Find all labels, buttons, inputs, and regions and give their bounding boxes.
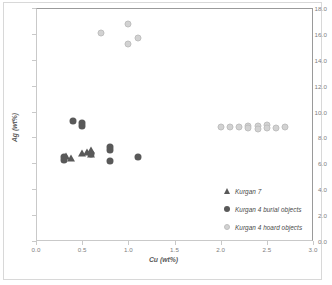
x-axis-tick-label: 0.0 [16,246,56,253]
y-axis-tick-mark [32,189,36,190]
y-axis-tick-mark [32,86,36,87]
x-axis-tick-mark [82,241,83,245]
x-axis-tick-label: 2.0 [201,246,241,253]
x-axis-tick-label: 3.0 [293,246,332,253]
y-axis-tick-label: 8.0 [297,134,327,141]
legend-item-kurgan-4-hoard[interactable]: Kurgan 4 hoard objects [222,218,320,236]
y-axis-tick-label: 14.0 [297,56,327,63]
y-axis-tick-label: 12.0 [297,82,327,89]
filled-circle-marker-icon [222,206,232,212]
x-axis-tick-mark [36,241,37,245]
legend-label: Kurgan 7 [235,188,261,195]
y-axis-tick-mark [32,112,36,113]
y-axis-tick-mark [32,137,36,138]
y-axis-tick-mark [32,34,36,35]
open-circle-marker-icon [222,224,232,230]
y-axis-tick-label: 16.0 [297,30,327,37]
y-axis-label: Ag (wt%) [11,93,18,163]
x-axis-tick-label: 2.5 [247,246,287,253]
x-axis-tick-label: 0.5 [62,246,102,253]
y-axis-tick-mark [32,8,36,9]
x-axis-tick-mark [313,241,314,245]
y-axis-tick-label: 18.0 [297,5,327,12]
y-axis-tick-mark [32,163,36,164]
y-axis-tick-label: 10.0 [297,108,327,115]
legend: Kurgan 7 Kurgan 4 burial objects Kurgan … [222,182,320,236]
x-axis-tick-label: 1.5 [155,246,195,253]
triangle-marker-icon [222,188,232,194]
y-axis-tick-label: 6.0 [297,160,327,167]
legend-item-kurgan-4-burial[interactable]: Kurgan 4 burial objects [222,200,320,218]
y-axis-tick-mark [32,215,36,216]
y-axis-tick-mark [32,60,36,61]
legend-label: Kurgan 4 burial objects [235,206,302,213]
x-axis-tick-mark [267,241,268,245]
legend-label: Kurgan 4 hoard objects [235,224,302,231]
x-axis-tick-label: 1.0 [108,246,148,253]
y-axis-tick-label: 0.0 [297,238,327,245]
x-axis-tick-mark [221,241,222,245]
x-axis-tick-mark [175,241,176,245]
legend-item-kurgan-7[interactable]: Kurgan 7 [222,182,320,200]
x-axis-tick-mark [128,241,129,245]
x-axis-label: Cu (wt%) [0,256,327,263]
